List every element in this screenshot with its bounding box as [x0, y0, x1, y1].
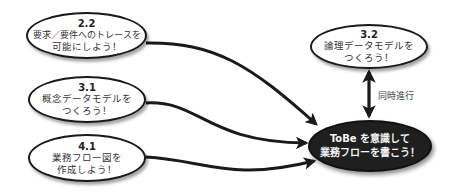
- node-goal-tobe-business-flow: ToBe を意識して 業務フローを書こう！: [308, 120, 432, 172]
- node-text-line1: ToBe を意識して: [330, 132, 410, 146]
- node-text-line2: 作成しよう！: [57, 164, 117, 176]
- node-text-line2: つくろう！: [62, 105, 112, 117]
- arrow-4-1-to-goal: [146, 157, 314, 170]
- node-text-line2: 可能にしよう！: [52, 41, 122, 53]
- arrow-2-2-to-goal: [146, 43, 316, 124]
- node-3-2-logical-data-model: 3.2 論理データモデルを つくろう！: [310, 24, 428, 69]
- concurrent-progress-label: 同時進行: [378, 89, 414, 102]
- arrow-3-1-to-goal: [146, 103, 306, 143]
- node-text-line1: 概念データモデルを: [42, 93, 132, 105]
- node-2-2-requirements-trace: 2.2 要求／要件へのトレースを 可能にしよう！: [26, 12, 147, 59]
- node-text-line2: 業務フローを書こう！: [320, 146, 420, 160]
- node-text-line2: つくろう！: [344, 52, 394, 64]
- node-number: 3.1: [78, 82, 96, 93]
- node-text-line1: 業務フロー図を: [52, 152, 122, 164]
- node-text-line1: 論理データモデルを: [324, 40, 414, 52]
- node-3-1-conceptual-data-model: 3.1 概念データモデルを つくろう！: [28, 76, 146, 123]
- node-number: 3.2: [360, 29, 378, 40]
- node-text-line1: 要求／要件へのトレースを: [33, 29, 141, 41]
- node-4-1-business-flow-diagram: 4.1 業務フロー図を 作成しよう！: [28, 134, 146, 182]
- node-number: 2.2: [78, 18, 96, 29]
- node-number: 4.1: [78, 141, 96, 152]
